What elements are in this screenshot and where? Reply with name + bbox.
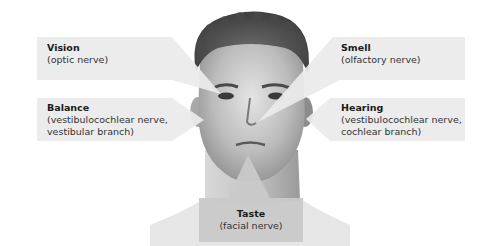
taste-label: Taste (facial nerve) bbox=[199, 208, 303, 232]
hearing-nerve-line-1: (vestibulocochlear nerve, bbox=[341, 114, 462, 126]
vision-title: Vision bbox=[47, 42, 108, 54]
balance-nerve-line-1: (vestibulocochlear nerve, bbox=[47, 114, 168, 126]
balance-nerve-line-2: vestibular branch) bbox=[47, 126, 168, 138]
vision-label: Vision (optic nerve) bbox=[47, 42, 108, 66]
smell-nerve: (olfactory nerve) bbox=[341, 54, 421, 66]
hearing-title: Hearing bbox=[341, 102, 462, 114]
smell-title: Smell bbox=[341, 42, 421, 54]
balance-title: Balance bbox=[47, 102, 168, 114]
hearing-nerve-line-2: cochlear branch) bbox=[341, 126, 462, 138]
senses-diagram: Vision (optic nerve) Balance (vestibuloc… bbox=[0, 0, 486, 246]
hearing-label: Hearing (vestibulocochlear nerve, cochle… bbox=[341, 102, 462, 138]
vision-nerve: (optic nerve) bbox=[47, 54, 108, 66]
taste-nerve: (facial nerve) bbox=[199, 220, 303, 232]
taste-title: Taste bbox=[199, 208, 303, 220]
smell-label: Smell (olfactory nerve) bbox=[341, 42, 421, 66]
balance-label: Balance (vestibulocochlear nerve, vestib… bbox=[47, 102, 168, 138]
